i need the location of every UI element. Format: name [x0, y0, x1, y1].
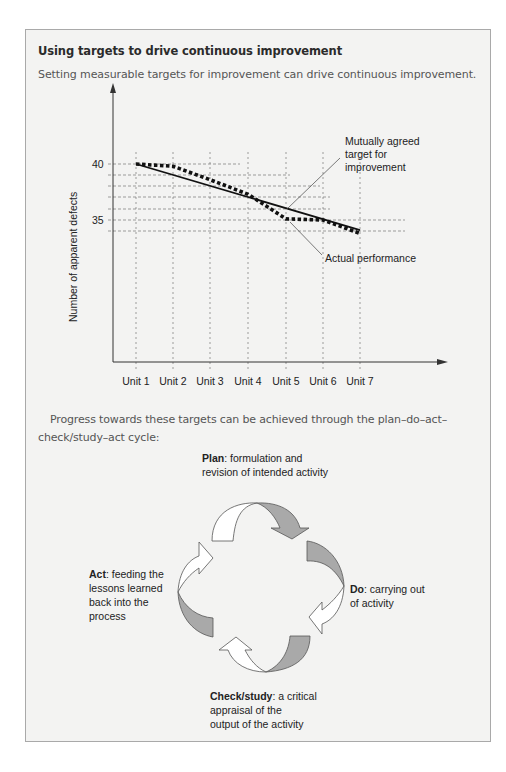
check-arrow-icon: [219, 636, 310, 672]
act-description-3: process: [89, 610, 126, 622]
check-label: Check/study: a critical: [210, 690, 317, 702]
pdca-cycle-diagram: Plan: formulation and revision of intend…: [0, 0, 506, 772]
check-description-1: appraisal of the: [210, 704, 282, 716]
act-description-2: back into the: [89, 596, 149, 608]
check-description-2: output of the activity: [210, 718, 304, 730]
plan-arrow-icon: [212, 503, 309, 541]
do-description: of activity: [350, 597, 395, 609]
plan-label: Plan: formulation and: [202, 452, 303, 464]
do-label: Do: carrying out: [350, 583, 425, 595]
act-description-1: lessons learned: [89, 582, 163, 594]
plan-description: revision of intended activity: [202, 466, 329, 478]
do-arrow-icon: [307, 541, 344, 634]
act-label: Act: feeding the: [89, 568, 164, 580]
act-arrow-icon: [178, 542, 213, 637]
